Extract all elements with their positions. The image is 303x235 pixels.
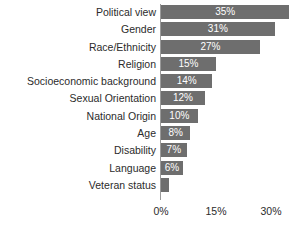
category-label: Race/Ethnicity (89, 40, 156, 54)
bar-row: Language 6% (0, 161, 303, 175)
bar-rows: Political view 35% Gender 31% Race/Ethni… (0, 5, 303, 195)
bar-wrapper (161, 178, 169, 192)
x-tick-label: 30% (251, 204, 291, 218)
category-label: Socioeconomic background (27, 74, 156, 88)
bar-row: Gender 31% (0, 22, 303, 36)
x-tick-label: 0% (141, 204, 181, 218)
bar: 35% (161, 5, 289, 19)
x-axis-ticks: 0% 15% 30% (0, 204, 303, 220)
bar-value-label (161, 178, 169, 192)
bar: 10% (161, 109, 198, 123)
bar: 6% (161, 161, 183, 175)
bar-value-label: 31% (161, 22, 275, 36)
bar-wrapper: 12% (161, 91, 205, 105)
category-label: Age (137, 126, 156, 140)
bar-row: Religion 15% (0, 57, 303, 71)
category-label: National Origin (87, 109, 156, 123)
bar-row: Political view 35% (0, 5, 303, 19)
category-label: Disability (114, 143, 156, 157)
bar-wrapper: 6% (161, 161, 183, 175)
bar-row: Race/Ethnicity 27% (0, 40, 303, 54)
bar-value-label: 27% (161, 40, 260, 54)
bar-value-label: 10% (161, 109, 198, 123)
bar-wrapper: 10% (161, 109, 198, 123)
bar-row: Socioeconomic background 14% (0, 74, 303, 88)
bar-wrapper: 35% (161, 5, 289, 19)
category-label: Political view (96, 5, 156, 19)
bar: 27% (161, 40, 260, 54)
bar-value-label: 12% (161, 91, 205, 105)
x-tick-label: 15% (196, 204, 236, 218)
bar-value-label: 6% (161, 161, 183, 175)
bar: 14% (161, 74, 212, 88)
bar-chart: Political view 35% Gender 31% Race/Ethni… (0, 0, 303, 235)
bar-row: Veteran status (0, 178, 303, 192)
bar-wrapper: 14% (161, 74, 212, 88)
category-label: Religion (118, 57, 156, 71)
bar: 8% (161, 126, 190, 140)
bar-wrapper: 7% (161, 143, 187, 157)
bar-value-label: 8% (161, 126, 190, 140)
bar-wrapper: 31% (161, 22, 275, 36)
bar-wrapper: 15% (161, 57, 216, 71)
bar: 12% (161, 91, 205, 105)
bar-wrapper: 27% (161, 40, 260, 54)
category-label: Language (109, 161, 156, 175)
bar: 15% (161, 57, 216, 71)
bar: 31% (161, 22, 275, 36)
category-label: Veteran status (89, 178, 156, 192)
bar-value-label: 7% (161, 143, 187, 157)
bar-row: Sexual Orientation 12% (0, 91, 303, 105)
bar: 7% (161, 143, 187, 157)
bar-value-label: 14% (161, 74, 212, 88)
bar-row: National Origin 10% (0, 109, 303, 123)
category-label: Gender (121, 22, 156, 36)
bar-row: Disability 7% (0, 143, 303, 157)
bar-row: Age 8% (0, 126, 303, 140)
category-label: Sexual Orientation (70, 91, 156, 105)
bar-value-label: 35% (161, 5, 289, 19)
bar (161, 178, 169, 192)
bar-value-label: 15% (161, 57, 216, 71)
bar-wrapper: 8% (161, 126, 190, 140)
